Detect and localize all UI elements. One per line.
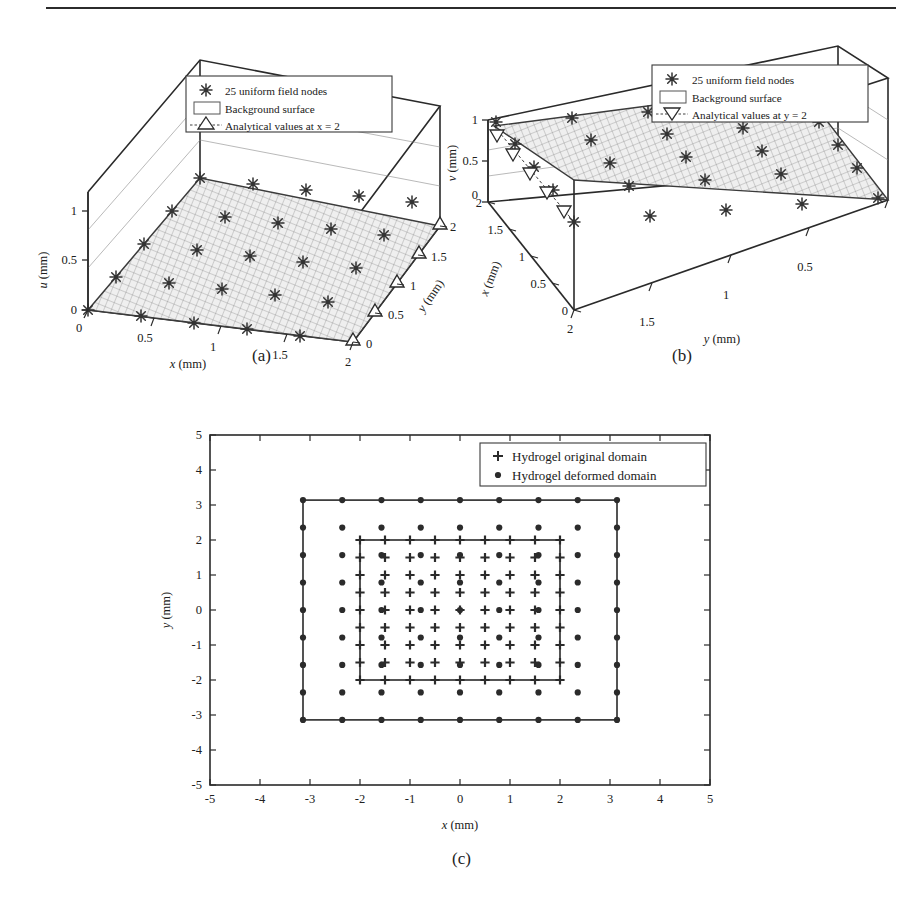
dot-marker: [300, 524, 306, 530]
panel-c-ytick-8: 3: [196, 498, 202, 512]
panel-b-y-axis: 2 1.5 1 0.5 y(mm): [567, 200, 888, 346]
panel-b-xtick-15: 1.5: [487, 223, 503, 237]
panel-c-ytick-3: -2: [192, 673, 202, 687]
dot-marker: [457, 689, 463, 695]
asterisk-icon: [666, 73, 678, 85]
panel-a: 0 0.5 1 u(mm) 0 0.5 1 1.5 2 x(mm): [20, 30, 460, 375]
panel-b-ytick-1: 1: [723, 288, 729, 302]
panel-a-xtick-0: 0: [76, 321, 82, 335]
dot-marker: [378, 717, 384, 723]
panel-a-ytick-0: 0: [366, 337, 372, 351]
panel-b-plot: 0 0.5 1 v(mm) 2 1.5 1 0.5 0 x(: [450, 30, 900, 375]
dot-marker: [614, 524, 620, 530]
dot-marker: [535, 634, 541, 640]
dot-marker: [457, 524, 463, 530]
dot-marker: [575, 717, 581, 723]
dot-marker: [300, 552, 306, 558]
panel-a-ztick-0: 0: [71, 303, 77, 317]
dot-marker: [339, 662, 345, 668]
panel-c-xtick-1: -4: [255, 792, 266, 806]
panel-c-x-ticklabels: -5 -4 -3 -2 -1 0 1 2 3 4 5: [205, 792, 713, 806]
panel-a-legend-label-0: 25 uniform field nodes: [225, 85, 327, 97]
panel-a-ztick-05: 0.5: [61, 253, 77, 267]
panel-a-xtick-15: 1.5: [272, 348, 288, 362]
dot-marker: [535, 717, 541, 723]
dot-marker: [535, 662, 541, 668]
dot-marker: [614, 552, 620, 558]
dot-marker: [418, 579, 424, 585]
dot-marker: [614, 497, 620, 503]
panel-c-ytick-4: -1: [192, 638, 202, 652]
panel-b-z-axis-label: v(mm): [445, 145, 459, 181]
dot-marker: [378, 552, 384, 558]
dot-marker: [457, 497, 463, 503]
panel-a-ytick-1: 1: [410, 279, 416, 293]
panel-c-xtick-5: 0: [457, 792, 463, 806]
panel-b: 0 0.5 1 v(mm) 2 1.5 1 0.5 0 x(: [450, 30, 900, 375]
panel-c-legend: Hydrogel original domain Hydrogel deform…: [480, 443, 706, 486]
dot-marker: [535, 552, 541, 558]
dot-marker: [300, 579, 306, 585]
panel-c-ytick-7: 2: [196, 533, 202, 547]
panel-a-ytick-15: 1.5: [431, 250, 447, 264]
dot-marker: [614, 689, 620, 695]
panel-c-ytick-10: 5: [196, 428, 202, 442]
dot-marker: [575, 552, 581, 558]
dot-marker: [339, 607, 345, 613]
dot-marker: [496, 607, 502, 613]
panel-b-legend: 25 uniform field nodes Background surfac…: [652, 65, 868, 122]
dot-marker: [496, 524, 502, 530]
dot-marker: [378, 689, 384, 695]
panel-c-caption: (c): [452, 849, 471, 869]
panel-b-legend-label-0: 25 uniform field nodes: [692, 74, 794, 86]
dot-marker: [575, 524, 581, 530]
dot-marker: [418, 607, 424, 613]
dot-marker: [496, 634, 502, 640]
panel-c-legend-label-0: Hydrogel original domain: [512, 449, 648, 464]
dot-marker: [418, 662, 424, 668]
dot-marker: [378, 497, 384, 503]
dot-marker: [535, 524, 541, 530]
panel-c-xtick-6: 1: [507, 792, 513, 806]
panel-a-x-axis-label: x(mm): [169, 357, 206, 371]
panel-b-caption: (b): [672, 346, 692, 366]
dot-marker: [300, 662, 306, 668]
panel-c-ytick-0: -5: [192, 778, 202, 792]
panel-c-xtick-10: 5: [707, 792, 713, 806]
panel-c-ytick-9: 4: [196, 463, 203, 477]
dot-marker: [339, 717, 345, 723]
asterisk-icon: [200, 84, 212, 96]
dot-marker: [535, 497, 541, 503]
dot-marker: [535, 689, 541, 695]
panel-c-plot: -5 -4 -3 -2 -1 0 1 2 3 4 5 x(mm): [150, 425, 770, 895]
panel-c-ytick-6: 1: [196, 568, 202, 582]
dot-marker: [300, 607, 306, 613]
panel-a-caption: (a): [252, 346, 271, 366]
dot-marker: [418, 634, 424, 640]
panel-a-legend-label-2: Analytical values at x = 2: [225, 120, 340, 132]
dot-marker: [418, 497, 424, 503]
panel-b-ytick-15: 1.5: [639, 315, 655, 329]
dot-marker: [339, 552, 345, 558]
panel-c-xtick-7: 2: [557, 792, 563, 806]
dot-marker: [339, 579, 345, 585]
dot-marker: [496, 689, 502, 695]
panel-c-ytick-2: -3: [192, 708, 202, 722]
dot-marker: [378, 662, 384, 668]
dot-marker: [418, 689, 424, 695]
panel-c-legend-label-1: Hydrogel deformed domain: [512, 468, 657, 483]
panel-b-ytick-05: 0.5: [797, 260, 813, 274]
panel-c-y-axis-label: y(mm): [159, 592, 173, 630]
panel-b-xtick-1: 1: [519, 250, 525, 264]
panel-b-xtick-2: 2: [476, 196, 482, 210]
dot-marker: [575, 634, 581, 640]
dot-marker: [378, 524, 384, 530]
dot-marker: [378, 607, 384, 613]
dot-marker: [614, 717, 620, 723]
dot-marker: [339, 497, 345, 503]
figure-container: 0 0.5 1 u(mm) 0 0.5 1 1.5 2 x(mm): [0, 0, 915, 905]
dot-marker: [418, 717, 424, 723]
dot-marker: [457, 717, 463, 723]
dot-marker: [496, 717, 502, 723]
dot-marker: [339, 634, 345, 640]
